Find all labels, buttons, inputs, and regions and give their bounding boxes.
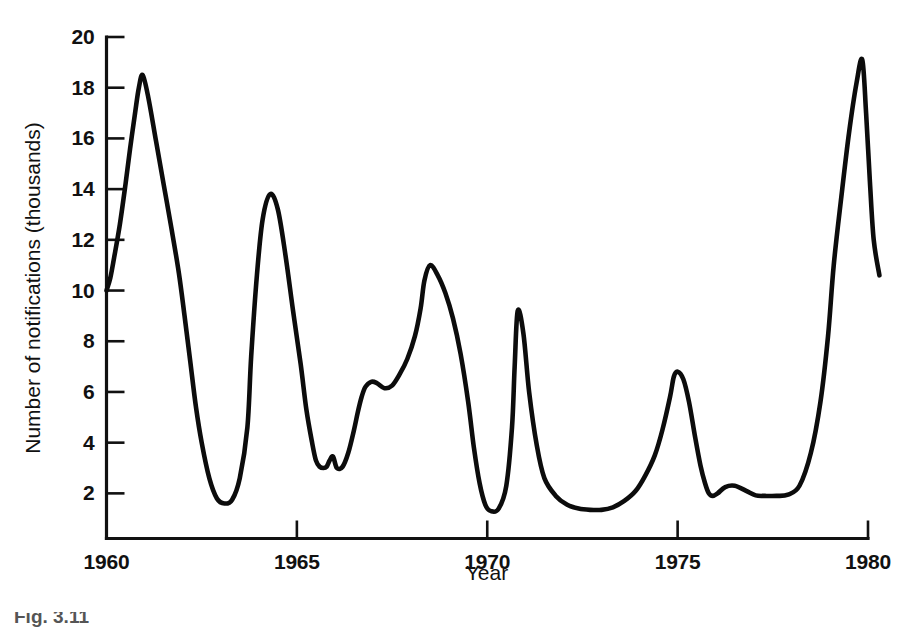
x-axis-title: Year	[466, 561, 508, 584]
x-tick-label-1975: 1975	[655, 550, 701, 573]
data-series-line	[107, 59, 880, 512]
y-axis-tick-labels: 2468101214161820	[72, 25, 95, 504]
y-tick-label-12: 12	[72, 228, 95, 251]
y-tick-label-8: 8	[83, 329, 95, 352]
x-tick-label-1980: 1980	[845, 550, 891, 573]
x-tick-label-1965: 1965	[274, 550, 320, 573]
y-axis-title: Number of notifications (thousands)	[21, 122, 44, 454]
y-tick-label-16: 16	[72, 126, 95, 149]
axes	[107, 37, 869, 539]
y-tick-label-2: 2	[83, 481, 94, 504]
figure-container: 2468101214161820 19601965197019751980 Ye…	[0, 0, 907, 629]
chart-canvas: 2468101214161820 19601965197019751980 Ye…	[0, 0, 907, 629]
y-tick-label-10: 10	[72, 279, 95, 302]
x-tick-label-1960: 1960	[84, 550, 130, 573]
y-tick-label-20: 20	[72, 25, 95, 48]
figure-caption: Fig. 3.11	[14, 612, 314, 629]
y-axis-ticks	[107, 37, 125, 493]
y-tick-label-6: 6	[83, 380, 94, 403]
y-tick-label-4: 4	[83, 431, 95, 454]
figure-caption-text: Fig. 3.11	[14, 612, 89, 628]
y-tick-label-14: 14	[72, 177, 95, 200]
x-axis-ticks	[107, 521, 869, 539]
y-tick-label-18: 18	[72, 76, 95, 99]
